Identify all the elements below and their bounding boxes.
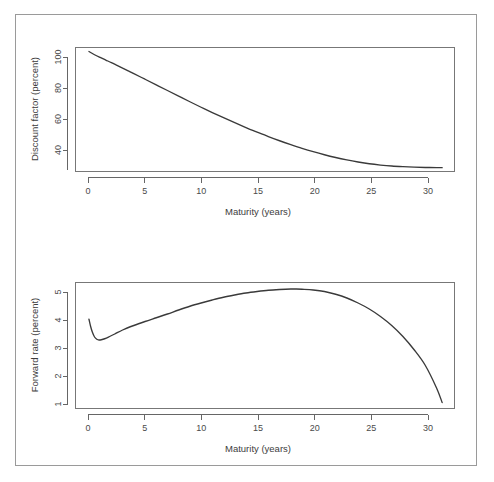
y-tick-label: 3 [53,345,63,350]
y-tick-label: 80 [53,83,63,93]
x-tick-label: 15 [253,186,263,196]
y-tick-label: 40 [53,145,63,155]
x-tick-label: 0 [85,186,90,196]
x-axis-ticks [88,415,428,420]
y-axis-title: Discount factor (percent) [29,57,40,161]
x-tick-label: 0 [85,423,90,433]
y-axis-ticks [63,57,68,150]
x-axis-title: Maturity (years) [225,443,291,454]
forward-rate-plot: 5 4 3 2 1 0 5 10 15 20 25 30 Forward rat… [16,241,478,467]
x-tick-label: 20 [310,186,320,196]
x-tick-label: 30 [423,186,433,196]
x-axis-ticks [88,178,428,183]
chart-panel-discount-factor: 100 80 60 40 0 5 10 15 20 25 30 Discount… [16,15,478,241]
y-axis-title: Forward rate (percent) [29,298,40,393]
y-tick-label: 5 [53,289,63,294]
x-tick-label: 5 [142,186,147,196]
y-tick-label: 2 [53,373,63,378]
discount-factor-plot: 100 80 60 40 0 5 10 15 20 25 30 Discount… [16,15,478,241]
x-tick-label: 25 [366,186,376,196]
figure-outer-frame: 100 80 60 40 0 5 10 15 20 25 30 Discount… [15,14,477,466]
x-tick-label: 20 [310,423,320,433]
plot-box [76,283,455,409]
plot-box [76,48,455,172]
data-curve-forward-rate [89,289,442,403]
y-tick-label: 100 [53,49,63,64]
x-axis-title: Maturity (years) [225,206,291,217]
chart-panel-forward-rate: 5 4 3 2 1 0 5 10 15 20 25 30 Forward rat… [16,241,478,467]
x-tick-label: 30 [423,423,433,433]
x-tick-label: 10 [196,186,206,196]
y-tick-label: 60 [53,114,63,124]
x-tick-label: 10 [196,423,206,433]
figure-page: 100 80 60 40 0 5 10 15 20 25 30 Discount… [0,0,494,482]
y-tick-label: 1 [53,401,63,406]
x-tick-label: 25 [366,423,376,433]
x-tick-label: 5 [142,423,147,433]
x-tick-label: 15 [253,423,263,433]
data-curve-discount-factor [89,52,442,168]
y-tick-label: 4 [53,317,63,322]
